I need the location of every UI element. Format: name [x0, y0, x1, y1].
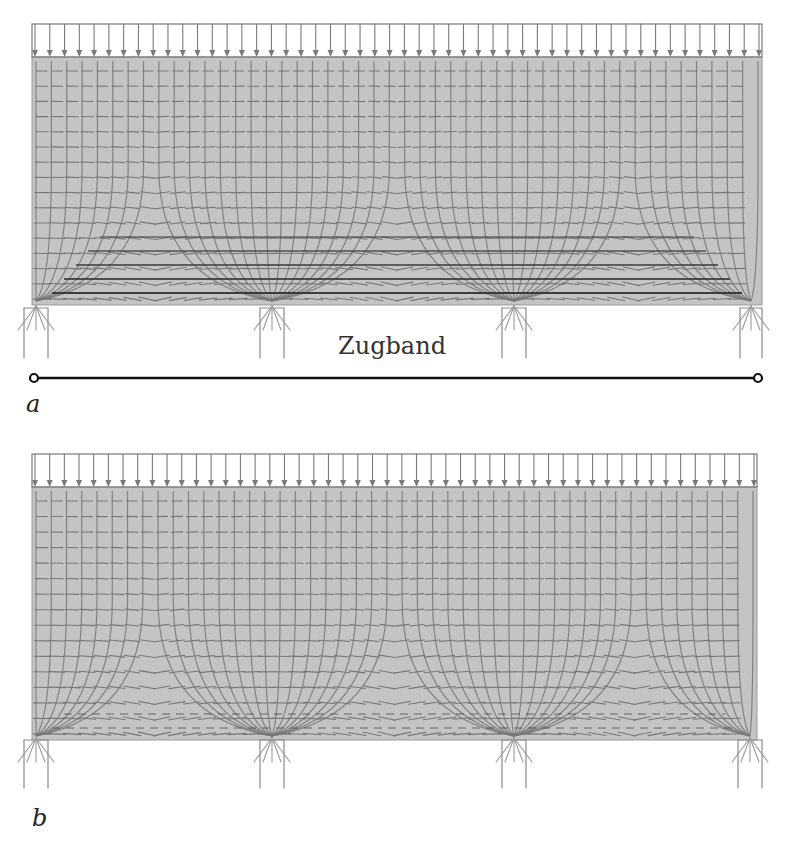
- load-arrow-icon: [638, 50, 644, 57]
- load-arrow-icon: [135, 50, 141, 57]
- load-arrow-icon: [224, 50, 230, 57]
- load-arrow-icon: [549, 50, 555, 57]
- load-arrow-icon: [180, 50, 186, 57]
- zugband-label: Zugband: [338, 332, 446, 360]
- load-arrow-icon: [712, 50, 718, 57]
- load-arrow-icon: [208, 480, 214, 487]
- load-arrow-icon: [298, 50, 304, 57]
- load-arrow-icon: [325, 480, 331, 487]
- load-arrow-icon: [736, 480, 742, 487]
- load-arrow-icon: [416, 50, 422, 57]
- load-arrow-icon: [135, 480, 141, 487]
- load-arrow-icon: [254, 50, 260, 57]
- load-arrow-icon: [384, 480, 390, 487]
- load-arrow-icon: [534, 50, 540, 57]
- load-arrow-icon: [608, 50, 614, 57]
- distributed-load: [32, 24, 762, 57]
- load-arrow-icon: [446, 50, 452, 57]
- load-arrow-icon: [62, 50, 68, 57]
- load-arrow-icon: [520, 50, 526, 57]
- load-arrow-icon: [76, 480, 82, 487]
- load-arrow-icon: [458, 480, 464, 487]
- load-arrow-icon: [590, 480, 596, 487]
- load-arrow-icon: [150, 50, 156, 57]
- load-arrow-icon: [579, 50, 585, 57]
- load-arrow-icon: [722, 480, 728, 487]
- load-arrow-icon: [121, 50, 127, 57]
- load-arrow-icon: [443, 480, 449, 487]
- load-arrow-icon: [91, 50, 97, 57]
- load-arrow-icon: [328, 50, 334, 57]
- load-arrow-icon: [47, 480, 53, 487]
- load-arrow-icon: [401, 50, 407, 57]
- load-arrow-icon: [560, 480, 566, 487]
- load-arrow-icon: [106, 50, 112, 57]
- load-arrow-icon: [239, 50, 245, 57]
- load-arrow-icon: [741, 50, 747, 57]
- load-arrow-icon: [697, 50, 703, 57]
- load-arrow-icon: [209, 50, 215, 57]
- load-arrow-icon: [505, 50, 511, 57]
- load-arrow-icon: [502, 480, 508, 487]
- load-arrow-icon: [564, 50, 570, 57]
- support-3: [496, 306, 532, 358]
- support-4: [733, 306, 769, 358]
- load-arrow-icon: [692, 480, 698, 487]
- load-arrow-icon: [355, 480, 361, 487]
- load-arrow-icon: [165, 50, 171, 57]
- load-arrow-icon: [340, 480, 346, 487]
- load-arrow-icon: [267, 480, 273, 487]
- load-arrow-icon: [193, 480, 199, 487]
- load-arrow-icon: [428, 480, 434, 487]
- panel-label-b: b: [32, 804, 47, 832]
- load-arrow-icon: [342, 50, 348, 57]
- load-arrow-icon: [195, 50, 201, 57]
- load-arrow-icon: [164, 480, 170, 487]
- load-arrow-icon: [268, 50, 274, 57]
- load-arrow-icon: [237, 480, 243, 487]
- panel-a: [18, 24, 769, 382]
- load-arrow-icon: [61, 480, 67, 487]
- load-arrow-icon: [281, 480, 287, 487]
- load-arrow-icon: [756, 50, 762, 57]
- load-arrow-icon: [372, 50, 378, 57]
- load-arrow-icon: [604, 480, 610, 487]
- load-arrow-icon: [283, 50, 289, 57]
- load-arrow-icon: [546, 480, 552, 487]
- load-arrow-icon: [252, 480, 258, 487]
- support-2: [254, 306, 290, 358]
- load-arrow-icon: [531, 480, 537, 487]
- load-arrow-icon: [619, 480, 625, 487]
- load-arrow-icon: [387, 50, 393, 57]
- load-arrow-icon: [475, 50, 481, 57]
- load-box: [32, 454, 757, 487]
- load-arrow-icon: [623, 50, 629, 57]
- load-arrow-icon: [593, 50, 599, 57]
- load-arrow-icon: [516, 480, 522, 487]
- supports: [18, 738, 768, 788]
- load-arrow-icon: [707, 480, 713, 487]
- load-arrow-icon: [751, 480, 757, 487]
- load-arrow-icon: [663, 480, 669, 487]
- load-arrow-icon: [682, 50, 688, 57]
- stress-trajectory-figure: Zugband a b: [0, 0, 787, 846]
- load-arrow-icon: [105, 480, 111, 487]
- load-arrow-icon: [726, 50, 732, 57]
- support-1: [18, 306, 54, 358]
- load-arrow-icon: [472, 480, 478, 487]
- load-arrow-icon: [357, 50, 363, 57]
- support-2: [254, 738, 290, 788]
- load-arrow-icon: [399, 480, 405, 487]
- load-arrow-icon: [431, 50, 437, 57]
- load-arrow-icon: [313, 50, 319, 57]
- load-arrow-icon: [648, 480, 654, 487]
- load-arrow-icon: [179, 480, 185, 487]
- load-arrow-icon: [414, 480, 420, 487]
- zugband-tie: [30, 374, 762, 382]
- load-arrow-icon: [32, 50, 38, 57]
- load-arrow-icon: [667, 50, 673, 57]
- tie-anchor-left-icon: [30, 374, 38, 382]
- load-arrow-icon: [487, 480, 493, 487]
- load-box: [32, 24, 762, 57]
- load-arrow-icon: [653, 50, 659, 57]
